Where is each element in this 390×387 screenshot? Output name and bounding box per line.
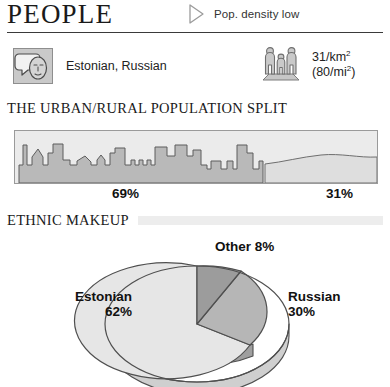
density-metric: 31/km (312, 50, 346, 64)
pie-label-russian-pct: 30% (288, 304, 315, 319)
urban-rural-section: THE URBAN/RURAL POPULATION SPLIT 69% 31% (0, 100, 390, 205)
speech-face-icon (13, 48, 53, 84)
density-metric-exponent: 2 (346, 49, 350, 58)
pie-label-estonian: Estonian 62% (36, 289, 132, 319)
ethnic-makeup-heading: ETHNIC MAKEUP (7, 212, 129, 229)
urban-rural-heading: THE URBAN/RURAL POPULATION SPLIT (7, 100, 287, 117)
population-density-fact: 31/km2 (80/mi2) (259, 44, 355, 86)
ethnic-makeup-section: ETHNIC MAKEUP Other 8% Estonian 62% Russ… (0, 212, 390, 387)
three-people-icon (259, 44, 303, 86)
rural-percent-label: 31% (326, 186, 353, 201)
pie-label-other: Other 8% (215, 239, 274, 254)
density-imperial-open: (80/mi (312, 65, 347, 79)
pop-density-flag: Pop. density low (188, 3, 299, 25)
density-imperial-close: ) (351, 65, 355, 79)
pie-label-russian-name: Russian (288, 289, 341, 304)
pie-label-estonian-pct: 62% (105, 304, 132, 319)
population-density-value: 31/km2 (80/mi2) (312, 50, 355, 80)
language-fact: Estonian, Russian (13, 48, 167, 84)
language-value: Estonian, Russian (66, 59, 167, 73)
ethnic-heading-band (138, 216, 383, 225)
facts-row: Estonian, Russian 31/km2 (80/mi2) (0, 44, 390, 94)
urban-rural-chart (14, 130, 378, 184)
triangle-right-icon (188, 3, 205, 25)
pop-density-flag-label: Pop. density low (214, 8, 299, 20)
urban-percent-label: 69% (112, 186, 139, 201)
page-header: PEOPLE Pop. density low (0, 0, 390, 34)
pie-label-russian: Russian 30% (288, 289, 341, 319)
page-title: PEOPLE (7, 0, 113, 30)
header-divider (7, 32, 383, 33)
pie-label-estonian-name: Estonian (75, 289, 132, 304)
